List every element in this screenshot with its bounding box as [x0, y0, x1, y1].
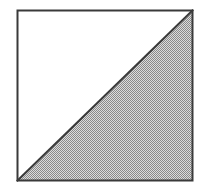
geometry-figure [0, 0, 205, 191]
